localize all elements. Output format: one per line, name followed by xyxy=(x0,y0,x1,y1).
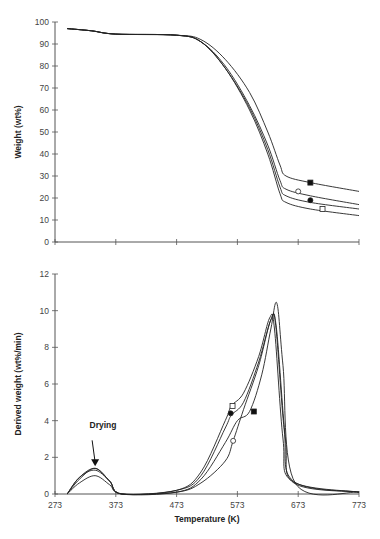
y-tick-label: 50 xyxy=(40,127,50,137)
marker-square-filled-icon xyxy=(308,180,313,185)
y-tick-label: 6 xyxy=(44,379,49,389)
series-line-filled-circle xyxy=(67,29,359,209)
y-tick-label: 70 xyxy=(40,83,50,93)
x-tick-label: 473 xyxy=(170,500,184,510)
x-tick-label: 273 xyxy=(48,500,62,510)
y-tick-label: 0 xyxy=(44,489,49,499)
series-line-open-square xyxy=(67,29,359,216)
y-tick-label: 0 xyxy=(44,237,49,247)
y-tick-label: 8 xyxy=(44,342,49,352)
series-line-open-circle xyxy=(67,314,359,495)
y-tick-label: 80 xyxy=(40,61,50,71)
y-tick-label: 10 xyxy=(40,215,50,225)
x-tick-label: 373 xyxy=(109,500,123,510)
marker-circle-filled-icon xyxy=(308,198,313,203)
marker-square-filled-icon xyxy=(251,409,256,414)
series-line-filled-square xyxy=(67,302,359,495)
x-tick-label: 773 xyxy=(352,500,366,510)
y-tick-label: 30 xyxy=(40,171,50,181)
weight-plot: 0102030405060708090100 xyxy=(35,17,359,247)
y-tick-label: 12 xyxy=(40,269,50,279)
marker-circle-open-icon xyxy=(231,438,236,443)
marker-square-open-icon xyxy=(320,207,325,212)
drying-arrow-icon xyxy=(92,440,95,462)
marker-circle-open-icon xyxy=(296,189,301,194)
y-tick-label: 10 xyxy=(40,306,50,316)
series-line-filled-circle xyxy=(67,313,359,494)
tga-chart-figure: 0102030405060708090100 02468101227337347… xyxy=(0,0,380,539)
marker-circle-filled-icon xyxy=(228,411,233,416)
y-tick-label: 60 xyxy=(40,105,50,115)
bottom-y-axis-label: Derived weight (wt%/min) xyxy=(13,332,23,435)
arrowhead-icon xyxy=(91,459,99,466)
top-y-axis-label: Weight (wt%) xyxy=(13,105,23,158)
y-tick-label: 20 xyxy=(40,193,50,203)
y-tick-label: 100 xyxy=(35,17,49,27)
x-tick-label: 673 xyxy=(291,500,305,510)
y-tick-label: 2 xyxy=(44,452,49,462)
drying-annotation: Drying xyxy=(90,420,117,430)
series-line-open-square xyxy=(67,314,359,495)
y-tick-label: 90 xyxy=(40,39,50,49)
marker-square-open-icon xyxy=(230,404,235,409)
y-tick-label: 40 xyxy=(40,149,50,159)
derived-weight-plot: 024681012273373473573673773 xyxy=(40,269,367,510)
series-line-open-circle xyxy=(67,29,359,205)
x-axis-label: Temperature (K) xyxy=(174,514,239,524)
y-tick-label: 4 xyxy=(44,416,49,426)
x-tick-label: 573 xyxy=(230,500,244,510)
